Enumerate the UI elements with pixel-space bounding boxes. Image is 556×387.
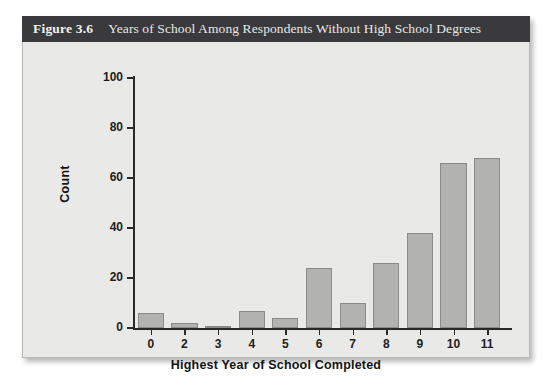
x-axis-tick-label: 8 — [371, 337, 401, 351]
bar — [340, 303, 366, 328]
y-axis-tick-label: 40 — [75, 220, 123, 234]
y-axis-tick-label: 0 — [75, 320, 123, 334]
bar — [474, 158, 500, 328]
x-axis-tick-label: 4 — [237, 337, 267, 351]
x-axis-tick — [151, 329, 152, 335]
y-axis-tick-label: 60 — [75, 170, 123, 184]
x-axis-title: Highest Year of School Completed — [23, 358, 529, 372]
y-axis-tick — [127, 127, 133, 128]
bar — [272, 318, 298, 328]
x-axis-tick-label: 0 — [136, 337, 166, 351]
x-axis-tick — [319, 329, 320, 335]
bar — [205, 326, 231, 329]
x-axis-tick — [184, 329, 185, 335]
bar — [373, 263, 399, 328]
y-axis-tick-label: 20 — [75, 270, 123, 284]
y-axis-tick — [127, 77, 133, 78]
x-axis-line — [133, 328, 512, 330]
y-axis-title: Count — [58, 139, 72, 229]
x-axis-tick-label: 5 — [270, 337, 300, 351]
y-axis-tick-label: 80 — [75, 120, 123, 134]
figure-number: Figure 3.6 — [33, 21, 93, 37]
y-axis-tick — [127, 177, 133, 178]
x-axis-tick — [218, 329, 219, 335]
bar — [138, 313, 164, 328]
x-axis-tick — [487, 329, 488, 335]
bar — [306, 268, 332, 328]
y-axis-tick — [127, 227, 133, 228]
x-axis-tick-label: 9 — [405, 337, 435, 351]
figure-caption-bar: Figure 3.6 Years of School Among Respond… — [22, 16, 530, 42]
x-axis-tick-label: 6 — [304, 337, 334, 351]
figure-container: Figure 3.6 Years of School Among Respond… — [22, 16, 530, 358]
plot-area — [134, 78, 504, 328]
bar-chart: 020406080100 Count 0234567891011 Highest… — [23, 42, 529, 357]
figure-panel: 020406080100 Count 0234567891011 Highest… — [22, 42, 530, 358]
x-axis-tick — [285, 329, 286, 335]
x-axis-tick-label: 7 — [338, 337, 368, 351]
x-axis-tick-label: 3 — [203, 337, 233, 351]
y-axis-tick-label: 100 — [75, 70, 123, 84]
x-axis-tick — [420, 329, 421, 335]
bar — [239, 311, 265, 329]
y-axis-tick — [127, 277, 133, 278]
x-axis-tick — [386, 329, 387, 335]
y-axis-tick — [127, 327, 133, 328]
bar — [171, 323, 197, 328]
figure-title: Years of School Among Respondents Withou… — [108, 21, 481, 37]
x-axis-tick-label: 2 — [169, 337, 199, 351]
y-axis-tick-labels: 020406080100 — [75, 42, 123, 357]
bar — [407, 233, 433, 328]
x-axis-tick — [353, 329, 354, 335]
x-axis-tick-label: 10 — [439, 337, 469, 351]
x-axis-tick — [252, 329, 253, 335]
x-axis-tick-label: 11 — [472, 337, 502, 351]
bar — [440, 163, 466, 328]
x-axis-tick — [454, 329, 455, 335]
